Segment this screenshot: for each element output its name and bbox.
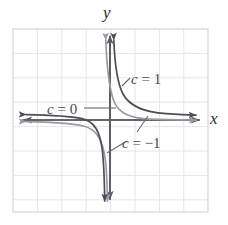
curve-label-c-equals-minus-1: c = −1 xyxy=(122,136,161,151)
curve-label-cm1-eq: = xyxy=(129,135,145,151)
x-axis-label: x xyxy=(210,110,218,127)
curve-label-c1-var: c xyxy=(131,71,138,87)
curve-label-c0-eq: = xyxy=(54,101,70,117)
graph-canvas xyxy=(0,0,228,225)
curve-label-c1-eq: = xyxy=(138,71,154,87)
curve-label-c0-value: 0 xyxy=(70,101,78,117)
y-axis-label: y xyxy=(103,4,111,21)
curve-label-c-equals-0: c = 0 xyxy=(47,102,77,117)
curve-label-c1-value: 1 xyxy=(154,71,162,87)
curve-label-c0-var: c xyxy=(47,101,54,117)
curve-label-cm1-var: c xyxy=(122,135,129,151)
curve-label-cm1-value: −1 xyxy=(145,135,161,151)
curve-label-c-equals-1: c = 1 xyxy=(131,72,161,87)
graph-figure: y x c = 1 c = 0 c = −1 xyxy=(0,0,228,225)
